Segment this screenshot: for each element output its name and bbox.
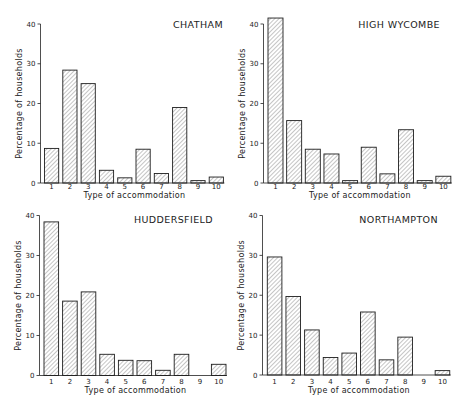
panel-title: NORTHAMPTON [359, 214, 438, 225]
bar-type-8 [173, 107, 187, 183]
bar-type-3 [305, 330, 320, 375]
y-tick-label: 10 [250, 140, 259, 148]
bar-type-2 [63, 301, 78, 375]
y-axis-label: Percentage of households [238, 48, 247, 159]
y-tick-label: 0 [31, 180, 35, 188]
y-tick-label: 10 [26, 332, 35, 340]
x-tick-label: 6 [366, 378, 371, 386]
x-tick-label: 3 [86, 183, 90, 191]
x-tick-label: 10 [439, 183, 448, 191]
x-tick-label: 5 [347, 378, 351, 386]
bar-type-5 [342, 353, 357, 375]
y-axis-label: Percentage of households [237, 240, 246, 351]
x-tick-label: 1 [49, 378, 53, 386]
x-tick-label: 8 [177, 183, 181, 191]
panel-chatham: 01020304012345678910Type of accommodatio… [15, 19, 224, 200]
bar-type-4 [323, 357, 338, 375]
bar-type-2 [286, 296, 301, 375]
panel-high-wycombe: 01020304012345678910Type of accommodatio… [238, 18, 452, 200]
x-axis-label: Type of accommodation [307, 386, 410, 395]
bar-type-3 [305, 149, 320, 183]
x-tick-label: 10 [438, 378, 447, 386]
panel-northampton: 01020304012345678910Type of accommodatio… [237, 212, 451, 395]
bar-type-3 [81, 84, 95, 183]
bar-type-2 [63, 70, 77, 183]
x-tick-label: 4 [104, 183, 109, 191]
bar-type-7 [380, 174, 395, 183]
bar-type-7 [156, 370, 171, 375]
y-tick-label: 10 [249, 332, 258, 340]
x-tick-label: 9 [198, 378, 202, 386]
bar-type-2 [287, 121, 302, 183]
y-tick-label: 10 [27, 140, 36, 148]
y-tick-label: 30 [26, 252, 35, 260]
y-tick-label: 20 [27, 100, 36, 108]
x-tick-label: 3 [311, 183, 315, 191]
bar-type-6 [136, 149, 150, 183]
x-tick-label: 2 [292, 183, 296, 191]
x-tick-label: 7 [161, 378, 165, 386]
bar-type-1 [44, 222, 59, 376]
bar-type-7 [379, 360, 394, 375]
bar-type-6 [137, 361, 152, 376]
x-tick-label: 7 [385, 183, 389, 191]
x-tick-label: 2 [291, 378, 295, 386]
x-axis-label: Type of accommodation [84, 386, 187, 395]
panel-title: HUDDERSFIELD [134, 214, 213, 225]
bar-type-8 [398, 337, 413, 375]
panel-huddersfield: 01020304012345678910Type of accommodatio… [14, 212, 227, 395]
x-tick-label: 4 [105, 378, 110, 386]
x-tick-label: 6 [141, 183, 146, 191]
y-tick-label: 40 [26, 212, 35, 220]
x-tick-label: 1 [273, 183, 277, 191]
bar-type-10 [435, 371, 450, 375]
y-tick-label: 40 [27, 21, 36, 29]
bar-type-4 [100, 354, 115, 375]
bar-type-8 [174, 354, 189, 375]
chart-canvas: 01020304012345678910Type of accommodatio… [0, 0, 468, 414]
x-tick-label: 7 [384, 378, 388, 386]
bar-type-6 [361, 312, 376, 375]
x-tick-label: 5 [123, 378, 127, 386]
x-tick-label: 6 [367, 183, 372, 191]
y-axis-label: Percentage of households [14, 240, 23, 351]
bar-type-10 [436, 176, 451, 183]
x-tick-label: 1 [272, 378, 276, 386]
bar-type-1 [268, 18, 283, 183]
x-tick-label: 10 [212, 183, 221, 191]
x-axis-label: Type of accommodation [308, 191, 411, 200]
bar-type-10 [211, 364, 226, 375]
x-tick-label: 1 [49, 183, 53, 191]
panel-title: HIGH WYCOMBE [358, 19, 440, 30]
y-tick-label: 20 [250, 100, 259, 108]
y-tick-label: 0 [254, 180, 258, 188]
bar-type-3 [81, 292, 96, 376]
y-tick-label: 30 [249, 252, 258, 260]
panel-title: CHATHAM [173, 19, 223, 30]
y-tick-label: 0 [253, 372, 257, 380]
bar-type-1 [267, 257, 282, 375]
x-tick-label: 5 [123, 183, 127, 191]
y-tick-label: 20 [26, 292, 35, 300]
y-tick-label: 30 [250, 60, 259, 68]
x-tick-label: 9 [196, 183, 200, 191]
x-tick-label: 8 [403, 378, 407, 386]
x-tick-label: 8 [179, 378, 183, 386]
x-tick-label: 4 [329, 183, 334, 191]
bar-type-4 [99, 170, 113, 183]
bar-type-8 [399, 130, 414, 183]
x-tick-label: 8 [404, 183, 408, 191]
y-tick-label: 40 [249, 212, 258, 220]
y-tick-label: 0 [30, 372, 34, 380]
y-tick-label: 20 [249, 292, 258, 300]
figure-4-panel-bar-charts: 01020304012345678910Type of accommodatio… [0, 0, 468, 414]
x-tick-label: 7 [159, 183, 163, 191]
x-tick-label: 9 [422, 183, 426, 191]
x-tick-label: 2 [68, 183, 72, 191]
bar-type-5 [118, 360, 133, 375]
x-tick-label: 6 [142, 378, 147, 386]
x-tick-label: 3 [86, 378, 90, 386]
y-tick-label: 40 [250, 21, 259, 29]
y-tick-label: 30 [27, 60, 36, 68]
bar-type-7 [154, 173, 168, 183]
